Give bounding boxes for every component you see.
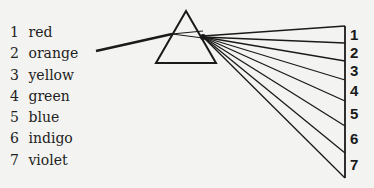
band-label-7: 7	[350, 156, 358, 173]
prism-diagram: 1 2 3 4 5 6 7	[0, 0, 374, 188]
band-label-6: 6	[350, 130, 358, 147]
dispersed-rays	[203, 26, 345, 178]
band-label-5: 5	[350, 105, 358, 122]
refracted-beam-lower	[172, 34, 203, 38]
band-label-3: 3	[350, 62, 358, 79]
band-label-1: 1	[350, 26, 358, 43]
incident-beam	[96, 34, 172, 51]
band-label-2: 2	[350, 44, 358, 61]
band-label-4: 4	[350, 82, 359, 99]
